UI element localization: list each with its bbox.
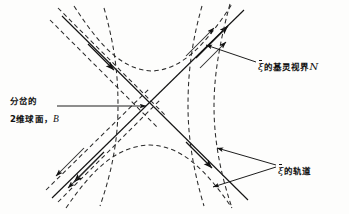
orbit-asymptote-nw-upper [58, 8, 166, 116]
orbit-top [74, 4, 232, 71]
arrow-nw-solid [88, 44, 114, 70]
horizon-solid-lines [52, 10, 248, 200]
overbar [279, 164, 282, 165]
orbits-label-text: 的轨道 [284, 166, 312, 176]
xi-glyph: ξ [258, 61, 264, 72]
orbit-asymptote-sw-upper [46, 88, 150, 190]
leader-orbit-lower [213, 167, 276, 187]
orbit-asymptote-nw-lower [50, 20, 158, 128]
leader-horizon [206, 45, 256, 62]
arrow-orbit-ne-1 [186, 28, 214, 56]
label-killing-orbits: ξ的轨道 [278, 160, 311, 178]
script-N-symbol: N [310, 61, 319, 72]
horizon-branch-nw-se [62, 16, 248, 200]
xi-glyph: ξ [278, 165, 284, 176]
bifurcation-line1: 分岔的 [10, 97, 59, 107]
overbar [259, 60, 262, 61]
horizon-label-text: 的基灵视界 [264, 62, 310, 72]
bifurcation-line2: 2维球面，B [10, 108, 59, 126]
arrow-orbit-sw-1 [68, 160, 96, 188]
label-bifurcation-sphere: 分岔的 2维球面，B [10, 97, 59, 126]
orbit-bottom [66, 145, 232, 208]
arrow-orbit-ne-2 [200, 42, 226, 68]
orbit-right-inner [188, 6, 204, 206]
xi-bar-symbol: ξ [258, 61, 264, 73]
arrow-se-solid [186, 142, 212, 168]
leader-orbit-upper [217, 148, 276, 165]
xi-bar-symbol-orbits: ξ [278, 165, 284, 177]
arrow-orbit-sw-2 [56, 148, 84, 176]
orbit-right-outer [214, 4, 232, 208]
orbit-left [100, 8, 118, 206]
label-killing-horizon: ξ的基灵视界N [258, 56, 318, 74]
bifurcation-symbol-B: B [53, 114, 59, 124]
bifurcation-line2-text: 2维球面， [10, 114, 53, 124]
